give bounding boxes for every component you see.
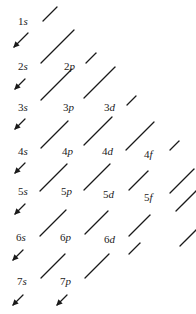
orbital-label-4s: 4s	[18, 146, 28, 157]
diagonal-segment	[129, 171, 148, 190]
orbital-label-3d: 3d	[104, 102, 115, 113]
subshell-letter: p	[66, 231, 72, 243]
subshell-letter: s	[22, 231, 26, 243]
subshell-letter: p	[70, 60, 76, 72]
diagonal-segment	[170, 141, 179, 150]
orbital-label-4d: 4d	[102, 146, 113, 157]
filling-arrows	[13, 33, 67, 305]
arrow-down-left-icon	[15, 79, 25, 89]
diagonal-segment	[84, 164, 110, 190]
aufbau-diagram: 1s2s2p3s3p3d4s4p4d4f5s5p5d5f6s6p6d7s7p	[0, 0, 196, 314]
subshell-letter: s	[24, 60, 28, 72]
diagonal-segment	[41, 121, 68, 148]
diagonal-segment	[126, 122, 154, 150]
orbital-label-5s: 5s	[18, 186, 28, 197]
diagonal-segment	[41, 69, 72, 100]
orbital-label-4f: 4f	[144, 149, 153, 160]
orbital-label-3s: 3s	[18, 102, 28, 113]
arrow-down-left-icon	[15, 204, 25, 214]
arrow-down-left-icon	[14, 33, 28, 47]
orbital-label-2p: 2p	[64, 61, 75, 72]
diagonal-segment	[84, 117, 112, 145]
diagonal-segment	[84, 67, 115, 98]
diagonal-segment	[85, 211, 108, 234]
orbital-label-6s: 6s	[16, 232, 26, 243]
subshell-letter: p	[66, 275, 72, 287]
orbital-label-7s: 7s	[17, 276, 27, 287]
diagonal-segment	[43, 7, 57, 21]
orbital-label-4p: 4p	[62, 146, 73, 157]
subshell-letter: d	[110, 233, 116, 245]
subshell-letter: s	[24, 185, 28, 197]
subshell-letter: d	[110, 101, 116, 113]
orbital-label-2s: 2s	[18, 61, 28, 72]
subshell-letter: s	[24, 101, 28, 113]
subshell-letter: p	[69, 101, 75, 113]
subshell-letter: d	[109, 188, 115, 200]
diagonal-segment	[176, 191, 196, 211]
orbital-label-6d: 6d	[104, 234, 115, 245]
subshell-letter: p	[67, 185, 73, 197]
diagonal-segment	[41, 30, 74, 63]
subshell-letter: s	[23, 275, 27, 287]
subshell-letter: s	[24, 145, 28, 157]
diagonal-segment	[85, 254, 109, 278]
orbital-label-3p: 3p	[63, 102, 74, 113]
arrow-down-left-icon	[13, 250, 23, 260]
orbital-label-1s: 1s	[18, 16, 28, 27]
orbital-label-7p: 7p	[60, 276, 71, 287]
diagonal-segment	[129, 243, 140, 254]
diagonal-segment	[127, 96, 136, 105]
subshell-letter: d	[108, 145, 114, 157]
diagonal-segment	[180, 230, 196, 246]
diagonal-segment	[170, 169, 194, 193]
orbital-label-5f: 5f	[144, 192, 153, 203]
orbital-label-6p: 6p	[60, 232, 71, 243]
arrow-down-left-icon	[13, 295, 23, 305]
diagonal-segment	[129, 215, 150, 236]
diagonal-segment	[86, 53, 96, 63]
subshell-letter: s	[24, 15, 28, 27]
orbital-label-5p: 5p	[61, 186, 72, 197]
subshell-letter: p	[68, 145, 74, 157]
arrow-down-left-icon	[15, 163, 25, 173]
subshell-letter: f	[150, 148, 153, 160]
orbital-label-5d: 5d	[103, 189, 114, 200]
arrow-down-left-icon	[57, 295, 67, 305]
subshell-letter: f	[150, 191, 153, 203]
arrow-down-left-icon	[15, 119, 25, 129]
diagonal-lines	[0, 0, 196, 314]
